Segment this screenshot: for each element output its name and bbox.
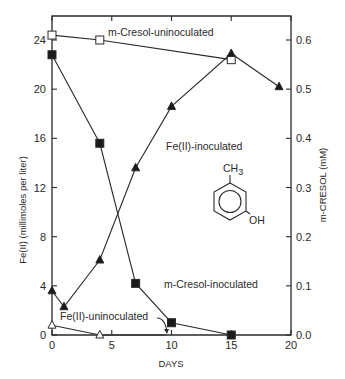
y-tick-label: 8 [40, 231, 46, 243]
aromatic-circle-icon [219, 191, 241, 213]
y2-tick-label: 0.4 [296, 132, 311, 144]
y2-tick-label: 0.6 [296, 34, 311, 46]
y-tick-label: 20 [34, 83, 46, 95]
y2-axis-title: m-CRESOL (mM) [317, 148, 328, 223]
filled-square-marker-icon [96, 139, 104, 147]
filled-triangle-marker-icon [132, 163, 140, 171]
y-tick-label: 12 [34, 182, 46, 194]
label-mcresol-uninoculated: m-Cresol-uninoculated [108, 26, 214, 38]
series-line-fe-ii-inoculated [52, 54, 279, 307]
x-axis-title: DAYS [158, 358, 183, 369]
x-tick-label: 10 [165, 339, 177, 351]
y-tick-label: 16 [34, 132, 46, 144]
oh-label: OH [249, 214, 265, 226]
filled-square-marker-icon [132, 279, 140, 287]
chart-svg: 05101520048121620240.00.10.20.30.40.50.6… [0, 0, 345, 379]
filled-square-marker-icon [227, 331, 235, 339]
x-tick-label: 5 [109, 339, 115, 351]
arrowhead-icon [164, 329, 169, 334]
open-triangle-marker-icon [48, 321, 56, 329]
filled-triangle-marker-icon [48, 286, 56, 294]
open-square-marker-icon [96, 36, 104, 44]
y-axis-title: Fe(II) (millimoles per liter) [17, 156, 28, 264]
label-mcresol-inoculated: m-Cresol-inoculated [164, 278, 258, 290]
y2-tick-label: 0.5 [296, 83, 311, 95]
label-fe-inoculated: Fe(II)-inoculated [166, 140, 243, 152]
filled-triangle-marker-icon [96, 256, 104, 264]
chart-container: 05101520048121620240.00.10.20.30.40.50.6… [0, 0, 345, 379]
filled-triangle-marker-icon [168, 102, 176, 110]
y2-tick-label: 0.2 [296, 231, 311, 243]
y-tick-label: 4 [40, 280, 46, 292]
m-cresol-structure: CH3 OH [214, 162, 265, 226]
y-tick-label: 24 [34, 34, 46, 46]
x-tick-label: 15 [225, 339, 237, 351]
series-line-fe-ii-uninoculated [52, 325, 166, 335]
label-fe-uninoculated: Fe(II)-uninoculated [60, 310, 148, 322]
y2-tick-label: 0.0 [296, 329, 311, 341]
y-tick-label: 0 [40, 329, 46, 341]
series-group [48, 31, 283, 339]
filled-square-marker-icon [48, 51, 56, 59]
y2-tick-label: 0.1 [296, 280, 311, 292]
filled-triangle-marker-icon [275, 82, 283, 90]
y2-tick-label: 0.3 [296, 182, 311, 194]
filled-square-marker-icon [168, 319, 176, 327]
x-tick-label: 0 [49, 339, 55, 351]
series-line-m-cresol-inoculated [52, 55, 231, 335]
axes: 05101520048121620240.00.10.20.30.40.50.6 [34, 16, 312, 351]
open-square-marker-icon [48, 31, 56, 39]
series-line-m-cresol-uninoculated [52, 35, 231, 60]
filled-triangle-marker-icon [227, 49, 235, 57]
ch3-label: CH3 [223, 162, 243, 177]
